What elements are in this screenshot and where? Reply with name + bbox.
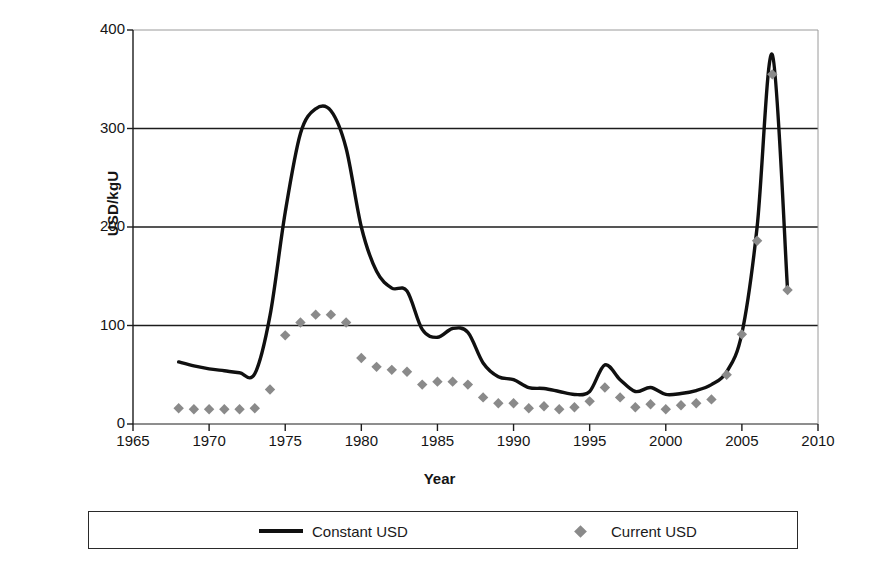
data-point-marker (661, 404, 671, 414)
chart-legend: Constant USD Current USD (88, 511, 798, 549)
data-point-marker (250, 403, 260, 413)
data-point-marker (447, 376, 457, 386)
data-point-marker (615, 392, 625, 402)
data-point-marker (706, 394, 716, 404)
data-point-marker (600, 382, 610, 392)
y-axis-tick-label: 200 (67, 218, 125, 233)
legend-diamond-swatch-icon (574, 525, 587, 538)
data-point-marker (691, 398, 701, 408)
series-line-constant-usd (179, 54, 788, 395)
y-axis-label: USD/kgU (104, 114, 121, 294)
legend-label-constant-usd: Constant USD (312, 523, 408, 540)
data-point-marker (524, 403, 534, 413)
legend-line-swatch-icon (259, 529, 303, 533)
x-axis-tick-label: 1970 (179, 432, 239, 449)
data-point-marker (265, 384, 275, 394)
data-point-marker (173, 403, 183, 413)
data-point-marker (402, 367, 412, 377)
x-axis-tick-label: 1990 (484, 432, 544, 449)
x-axis-tick-label: 1965 (103, 432, 163, 449)
data-point-marker (539, 401, 549, 411)
x-axis-tick-label: 2010 (788, 432, 848, 449)
data-point-marker (676, 400, 686, 410)
x-axis-label: Year (0, 470, 879, 487)
data-point-marker (645, 399, 655, 409)
data-point-marker (463, 379, 473, 389)
legend-item-current-usd: Current USD (559, 512, 697, 550)
x-axis-tick-label: 1975 (255, 432, 315, 449)
data-point-marker (204, 404, 214, 414)
data-point-marker (417, 379, 427, 389)
data-point-marker (737, 329, 747, 339)
data-point-marker (554, 404, 564, 414)
data-point-marker (356, 353, 366, 363)
data-point-marker (219, 404, 229, 414)
legend-item-constant-usd: Constant USD (259, 512, 408, 550)
data-point-marker (478, 392, 488, 402)
y-axis-tick-label: 0 (67, 415, 125, 430)
data-point-marker (387, 365, 397, 375)
data-point-marker (432, 376, 442, 386)
chart-plot-area (0, 0, 879, 579)
x-axis-tick-label: 1980 (331, 432, 391, 449)
data-point-marker (584, 396, 594, 406)
x-axis-tick-label: 1985 (407, 432, 467, 449)
y-axis-tick-label: 300 (67, 120, 125, 135)
x-axis-tick-label: 1995 (560, 432, 620, 449)
data-point-marker (630, 402, 640, 412)
data-point-marker (310, 309, 320, 319)
chart-figure: USD/kgU Year 0100200300400 1965197019751… (0, 0, 879, 579)
data-point-marker (326, 309, 336, 319)
data-point-marker (569, 402, 579, 412)
y-axis-tick-label: 100 (67, 317, 125, 332)
data-point-marker (189, 404, 199, 414)
x-axis-tick-label: 2005 (712, 432, 772, 449)
data-point-marker (371, 362, 381, 372)
x-axis-tick-label: 2000 (636, 432, 696, 449)
data-point-marker (508, 398, 518, 408)
data-point-marker (782, 285, 792, 295)
legend-label-current-usd: Current USD (611, 523, 697, 540)
data-point-marker (493, 398, 503, 408)
y-axis-tick-label: 400 (67, 21, 125, 36)
data-point-marker (280, 330, 290, 340)
data-point-marker (234, 404, 244, 414)
